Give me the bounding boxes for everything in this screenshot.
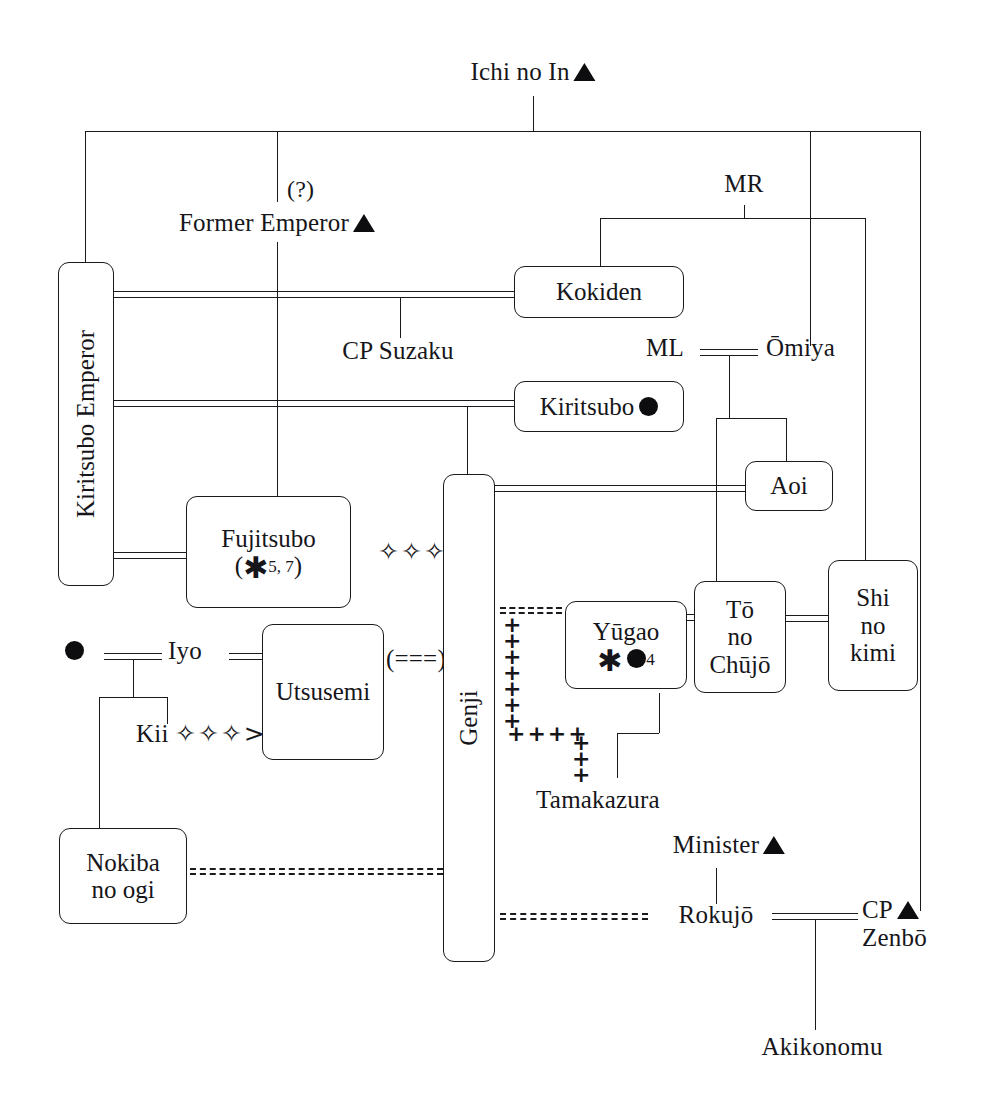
node-shi-no-kimi: Shi no kimi bbox=[828, 560, 918, 691]
affair-nokiba-genji bbox=[190, 868, 443, 875]
line-kiritsubo-to-genji bbox=[467, 407, 468, 474]
node-ml: ML bbox=[646, 334, 684, 362]
marriage-kiritsubo-emperor-fujitsubo bbox=[114, 552, 186, 559]
line-tamakazura-bar bbox=[617, 733, 659, 734]
female-circle-icon bbox=[65, 641, 84, 660]
line-to-to-no-chujo bbox=[716, 418, 717, 581]
line-ichi-no-in-down bbox=[533, 96, 534, 131]
node-genji: Genji bbox=[443, 474, 495, 962]
line-to-cp-suzaku bbox=[400, 298, 401, 338]
marriage-kiritsubo-emperor-kokiden bbox=[114, 291, 514, 298]
asterisk-icon: ✱ bbox=[243, 550, 268, 585]
male-triangle-icon bbox=[897, 901, 919, 919]
node-tamakazura: Tamakazura bbox=[536, 786, 660, 814]
node-cp-zenbo: CP Zenbō bbox=[862, 896, 927, 952]
node-kiritsubo-emperor: Kiritsubo Emperor bbox=[58, 262, 114, 586]
node-shi-no-kimi-label: Shi no kimi bbox=[846, 584, 900, 667]
node-fujitsubo-label: Fujitsubo (✱5, 7) bbox=[217, 525, 319, 580]
line-top-sibling-bar bbox=[85, 131, 921, 132]
line-ml-children-bar bbox=[716, 418, 786, 419]
node-kokiden: Kokiden bbox=[514, 266, 684, 318]
node-kokiden-label: Kokiden bbox=[552, 278, 646, 306]
female-circle-icon bbox=[627, 649, 646, 668]
node-aoi-label: Aoi bbox=[766, 472, 812, 500]
utsusemi-affair-note: (===) bbox=[386, 645, 446, 673]
node-utsusemi-label: Utsusemi bbox=[272, 678, 374, 706]
node-mr: MR bbox=[724, 170, 763, 198]
node-yugao: Yūgao ✱4 bbox=[565, 601, 687, 689]
line-iyo-children-down bbox=[133, 660, 134, 697]
marriage-rokujo-cp-zenbo bbox=[772, 913, 858, 920]
node-akikonomu: Akikonomu bbox=[761, 1033, 882, 1061]
line-to-aoi bbox=[786, 418, 787, 461]
node-aoi: Aoi bbox=[745, 461, 833, 511]
marriage-kiritsubo-emperor-kiritsubo bbox=[114, 400, 514, 407]
genealogy-diagram: Ichi no In (?) Former Emperor MR Kiritsu… bbox=[0, 0, 983, 1097]
node-kiritsubo-emperor-label: Kiritsubo Emperor bbox=[72, 330, 100, 518]
node-genji-label: Genji bbox=[455, 690, 483, 746]
line-mr-sibling-bar bbox=[600, 218, 865, 219]
line-mr-to-shi-no-kimi bbox=[865, 218, 866, 560]
male-triangle-icon bbox=[763, 836, 785, 854]
line-top-to-mr bbox=[810, 131, 811, 346]
node-fujitsubo: Fujitsubo (✱5, 7) bbox=[186, 496, 351, 608]
affair-path-vertical-genji: ++ ++ ++ + bbox=[503, 617, 517, 729]
node-kii: Kii ✧✧✧> bbox=[136, 720, 267, 748]
line-to-nokiba bbox=[99, 697, 100, 828]
marriage-iyo-utsusemi bbox=[229, 653, 262, 660]
node-cp-suzaku: CP Suzaku bbox=[342, 337, 453, 365]
node-kiritsubo-label: Kiritsubo bbox=[536, 393, 662, 421]
node-yugao-label: Yūgao ✱4 bbox=[589, 618, 664, 673]
asterisk-icon: ✱ bbox=[597, 643, 622, 678]
node-kiritsubo: Kiritsubo bbox=[514, 381, 684, 432]
marriage-circle-iyo bbox=[104, 653, 162, 660]
node-omiya: Ōmiya bbox=[766, 334, 835, 362]
fujitsubo-diamond-link: ✧✧✧ bbox=[378, 538, 447, 566]
affair-path-vertical-tamakazura: ++ + bbox=[572, 735, 586, 783]
node-nokiba-no-ogi: Nokiba no ogi bbox=[59, 828, 187, 924]
label-question-mark: (?) bbox=[287, 176, 314, 203]
node-minister: Minister bbox=[673, 831, 785, 859]
female-circle-icon bbox=[639, 397, 658, 416]
line-right-spine-lower bbox=[920, 700, 921, 885]
male-triangle-icon bbox=[353, 214, 375, 232]
line-former-emperor-down bbox=[277, 242, 278, 500]
marriage-ml-omiya bbox=[700, 349, 758, 356]
marriage-genji-aoi bbox=[495, 485, 745, 492]
node-utsusemi: Utsusemi bbox=[262, 624, 384, 760]
line-to-akikonomu bbox=[815, 920, 816, 1030]
line-ml-omiya-down bbox=[729, 356, 730, 418]
line-top-to-kiritsubo-emperor bbox=[85, 131, 86, 262]
node-iyo: Iyo bbox=[168, 637, 202, 665]
male-triangle-icon bbox=[574, 63, 596, 81]
node-ichi-no-in: Ichi no In bbox=[470, 58, 595, 86]
line-mr-down bbox=[744, 205, 745, 218]
node-nokiba-no-ogi-label: Nokiba no ogi bbox=[82, 849, 164, 904]
node-rokujo: Rokujō bbox=[679, 901, 754, 929]
line-to-kii bbox=[167, 697, 168, 724]
line-tamakazura-down bbox=[617, 733, 618, 778]
line-minister-to-rokujo bbox=[716, 868, 717, 904]
affair-genji-rokujo bbox=[500, 913, 648, 920]
line-to-no-chujo-down bbox=[659, 693, 660, 733]
marriage-to-no-chujo-shi-no-kimi bbox=[786, 615, 828, 622]
node-former-emperor: Former Emperor bbox=[179, 209, 375, 237]
line-iyo-children-bar bbox=[99, 697, 167, 698]
node-to-no-chujo-label: Tō no Chūjō bbox=[705, 596, 774, 679]
node-iyo-spouse-circle bbox=[65, 637, 84, 665]
line-mr-to-kokiden bbox=[600, 218, 601, 266]
line-top-to-former-emperor bbox=[277, 131, 278, 202]
node-to-no-chujo: Tō no Chūjō bbox=[694, 581, 786, 693]
